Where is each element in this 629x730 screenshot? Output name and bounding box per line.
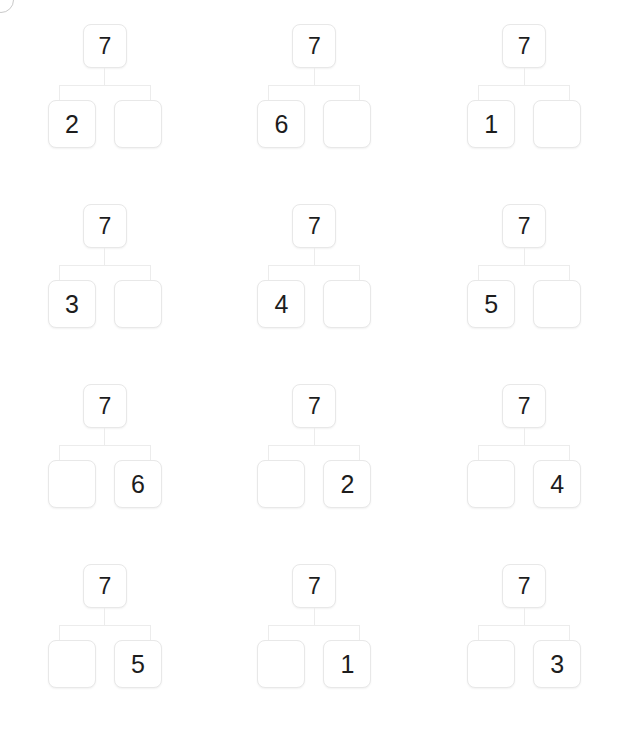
connector-stem-right <box>150 265 151 280</box>
number-bond-1: 72 <box>0 24 210 204</box>
connector-stem-left <box>59 85 60 100</box>
connector-stem-left <box>478 625 479 640</box>
bond-connector <box>466 428 582 460</box>
part-box-left[interactable]: 2 <box>48 100 96 148</box>
connector-stem-left <box>478 265 479 280</box>
parts-row: 5 <box>48 640 162 688</box>
whole-box: 7 <box>83 564 127 608</box>
connector-stem-left <box>478 445 479 460</box>
part-box-right-blank[interactable] <box>533 100 581 148</box>
part-box-right-blank[interactable] <box>114 100 162 148</box>
bond-connector <box>256 248 372 280</box>
parts-row: 2 <box>48 100 162 148</box>
number-bond-5: 74 <box>210 204 420 384</box>
connector-stem-right <box>569 625 570 640</box>
part-box-left[interactable]: 3 <box>48 280 96 328</box>
connector-stem-top <box>104 248 105 265</box>
parts-row: 6 <box>48 460 162 508</box>
number-bond-12: 73 <box>419 564 629 730</box>
connector-stem-right <box>359 265 360 280</box>
connector-crossbar <box>268 445 360 446</box>
bond-connector <box>256 428 372 460</box>
connector-stem-left <box>268 625 269 640</box>
connector-stem-top <box>104 428 105 445</box>
connector-crossbar <box>59 85 151 86</box>
part-box-left-blank[interactable] <box>467 640 515 688</box>
bond-connector <box>47 608 163 640</box>
part-box-right[interactable]: 5 <box>114 640 162 688</box>
connector-stem-left <box>59 445 60 460</box>
bond-connector <box>256 68 372 100</box>
number-bond-11: 71 <box>210 564 420 730</box>
connector-crossbar <box>59 625 151 626</box>
whole-box: 7 <box>292 564 336 608</box>
part-box-left-blank[interactable] <box>257 640 305 688</box>
part-box-right-blank[interactable] <box>323 100 371 148</box>
part-box-right-blank[interactable] <box>114 280 162 328</box>
part-box-left[interactable]: 6 <box>257 100 305 148</box>
number-bond-4: 73 <box>0 204 210 384</box>
bond-connector <box>47 68 163 100</box>
connector-crossbar <box>478 445 570 446</box>
number-bond-7: 76 <box>0 384 210 564</box>
parts-row: 4 <box>257 280 371 328</box>
bond-connector <box>466 248 582 280</box>
parts-row: 1 <box>467 100 581 148</box>
connector-crossbar <box>268 625 360 626</box>
connector-stem-top <box>104 68 105 85</box>
part-box-left-blank[interactable] <box>467 460 515 508</box>
parts-row: 2 <box>257 460 371 508</box>
part-box-left[interactable]: 5 <box>467 280 515 328</box>
number-bond-9: 74 <box>419 384 629 564</box>
part-box-right[interactable]: 4 <box>533 460 581 508</box>
parts-row: 5 <box>467 280 581 328</box>
part-box-left[interactable]: 4 <box>257 280 305 328</box>
parts-row: 1 <box>257 640 371 688</box>
connector-stem-top <box>314 248 315 265</box>
connector-stem-top <box>314 428 315 445</box>
part-box-right[interactable]: 3 <box>533 640 581 688</box>
part-box-right[interactable]: 1 <box>323 640 371 688</box>
part-box-left-blank[interactable] <box>257 460 305 508</box>
connector-stem-right <box>150 445 151 460</box>
connector-stem-left <box>268 85 269 100</box>
whole-box: 7 <box>292 204 336 248</box>
connector-stem-right <box>150 625 151 640</box>
connector-stem-left <box>59 265 60 280</box>
connector-crossbar <box>59 265 151 266</box>
whole-box: 7 <box>292 24 336 68</box>
number-bond-grid: 727671737475767274757173 <box>0 0 629 730</box>
connector-stem-left <box>268 265 269 280</box>
whole-box: 7 <box>502 24 546 68</box>
part-box-right-blank[interactable] <box>533 280 581 328</box>
connector-stem-top <box>524 68 525 85</box>
connector-stem-top <box>524 248 525 265</box>
part-box-right[interactable]: 2 <box>323 460 371 508</box>
part-box-right[interactable]: 6 <box>114 460 162 508</box>
part-box-left-blank[interactable] <box>48 460 96 508</box>
connector-stem-top <box>524 428 525 445</box>
whole-box: 7 <box>83 204 127 248</box>
connector-stem-right <box>359 625 360 640</box>
bond-connector <box>256 608 372 640</box>
connector-stem-right <box>359 85 360 100</box>
whole-box: 7 <box>292 384 336 428</box>
part-box-left-blank[interactable] <box>48 640 96 688</box>
connector-stem-top <box>314 68 315 85</box>
connector-stem-left <box>478 85 479 100</box>
parts-row: 3 <box>467 640 581 688</box>
bond-connector <box>466 608 582 640</box>
connector-crossbar <box>478 85 570 86</box>
connector-stem-right <box>359 445 360 460</box>
number-bond-8: 72 <box>210 384 420 564</box>
whole-box: 7 <box>83 384 127 428</box>
whole-box: 7 <box>83 24 127 68</box>
connector-stem-top <box>524 608 525 625</box>
bond-connector <box>47 248 163 280</box>
connector-stem-right <box>569 445 570 460</box>
parts-row: 6 <box>257 100 371 148</box>
part-box-left[interactable]: 1 <box>467 100 515 148</box>
bond-connector <box>466 68 582 100</box>
parts-row: 4 <box>467 460 581 508</box>
part-box-right-blank[interactable] <box>323 280 371 328</box>
